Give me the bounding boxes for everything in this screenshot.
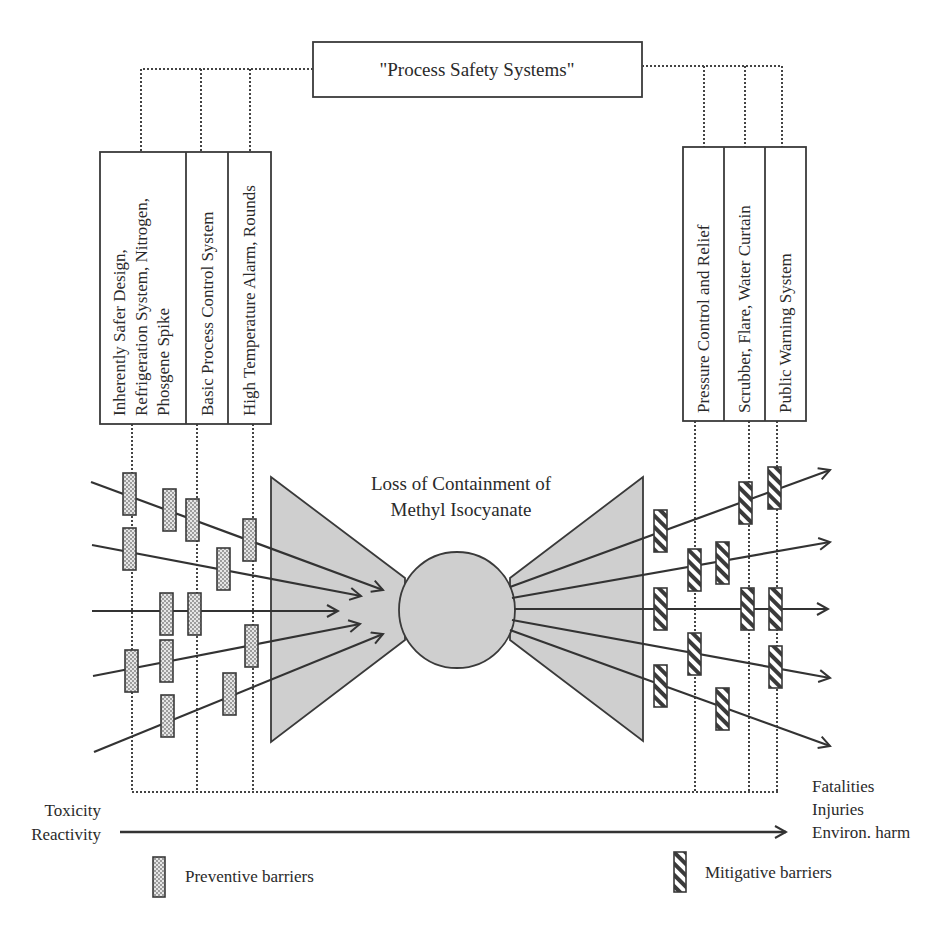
mitigative-barrier <box>741 588 754 630</box>
preventive-barrier <box>125 650 138 692</box>
preventive-barrier <box>163 489 176 531</box>
preventive-barrier <box>188 593 201 635</box>
preventive-barrier <box>243 519 256 561</box>
preventive-barrier <box>186 499 199 541</box>
mitigative-barrier <box>654 510 667 552</box>
legend-mitigative-swatch <box>674 852 686 892</box>
mitigative-barrier <box>769 588 782 630</box>
mitigative-systems-box: Pressure Control and Relief Scrubber, Fl… <box>683 147 806 421</box>
hazard-label-reactivity: Reactivity <box>31 825 101 844</box>
preventive-barrier <box>245 625 258 667</box>
consequence-label-fatalities: Fatalities <box>812 777 874 796</box>
process-safety-systems-label: "Process Safety Systems" <box>380 59 575 80</box>
preventive-system-1-line-3: Phosgene Spike <box>154 308 173 416</box>
preventive-barrier <box>217 548 230 590</box>
top-event-circle <box>399 552 515 668</box>
left-threat-wedge <box>271 477 405 742</box>
legend-preventive-label: Preventive barriers <box>185 867 314 886</box>
mitigative-barrier <box>716 688 729 730</box>
preventive-barrier <box>123 473 136 515</box>
mitigative-barrier <box>688 633 701 675</box>
legend-preventive-swatch <box>153 857 165 897</box>
preventive-barrier <box>160 640 173 682</box>
preventive-system-1-line-2: Refrigeration System, Nitrogen, <box>132 198 151 416</box>
preventive-barrier <box>160 593 173 635</box>
mitigative-barrier <box>654 588 667 630</box>
consequence-label-injuries: Injuries <box>812 800 864 819</box>
mitigative-barrier <box>654 665 667 707</box>
consequence-label-environ-harm: Environ. harm <box>812 823 910 842</box>
preventive-barrier <box>161 695 174 737</box>
consequence-labels: Fatalities Injuries Environ. harm <box>812 777 910 842</box>
mitigative-system-1-label: Pressure Control and Relief <box>694 224 713 413</box>
mitigative-system-3-label: Public Warning System <box>776 253 795 413</box>
preventive-systems-box: Inherently Safer Design, Refrigeration S… <box>100 152 271 424</box>
top-event-label: Loss of Containment of Methyl Isocyanate <box>371 473 552 520</box>
hazard-labels: Toxicity Reactivity <box>31 801 101 844</box>
mitigative-barrier <box>769 646 782 688</box>
preventive-system-3-label: High Temperature Alarm, Rounds <box>240 185 259 416</box>
preventive-barrier <box>223 673 236 715</box>
process-safety-systems-box: "Process Safety Systems" <box>313 42 642 97</box>
mitigative-system-2-label: Scrubber, Flare, Water Curtain <box>735 205 754 413</box>
mitigative-barrier <box>739 482 752 524</box>
hazard-label-toxicity: Toxicity <box>45 801 102 820</box>
mitigative-barrier <box>688 549 701 591</box>
preventive-barrier <box>123 528 136 570</box>
legend: Preventive barriers Mitigative barriers <box>153 852 832 897</box>
preventive-system-2-label: Basic Process Control System <box>198 212 217 416</box>
mitigative-barrier <box>768 467 781 509</box>
mitigative-barrier <box>716 542 729 584</box>
preventive-barriers <box>123 473 258 737</box>
bow-tie-diagram: "Process Safety Systems" Inherently Safe… <box>0 0 950 927</box>
top-event-line-2: Methyl Isocyanate <box>391 499 532 520</box>
legend-mitigative-label: Mitigative barriers <box>705 863 832 882</box>
mitigative-barriers <box>654 467 782 730</box>
preventive-system-1-line-1: Inherently Safer Design, <box>110 249 129 416</box>
top-event-line-1: Loss of Containment of <box>371 473 552 494</box>
